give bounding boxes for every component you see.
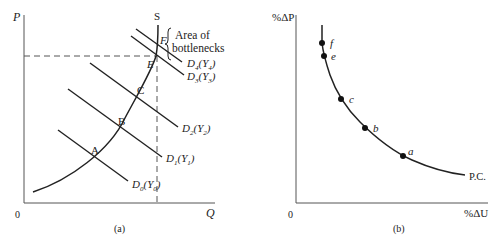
demand-label-d3: D3(Y3) <box>186 70 216 85</box>
demand-label-d1: D1(Y1) <box>165 152 195 167</box>
panel-a-caption: (a) <box>114 223 125 235</box>
point-f-marker <box>319 40 325 46</box>
point-b-label: b <box>373 122 379 134</box>
panel-a: P 0 Q (a) S Area of bottlenecks A B C E … <box>12 10 225 235</box>
demand-curve-d2 <box>90 63 178 127</box>
panel-b-origin-label: 0 <box>288 209 293 220</box>
point-f-label: F <box>159 34 167 46</box>
point-e-label: E <box>146 58 154 70</box>
figure: P 0 Q (a) S Area of bottlenecks A B C E … <box>0 0 499 243</box>
point-b-label: B <box>118 115 125 127</box>
point-e-marker <box>321 53 327 59</box>
panel-b-y-axis-label: %ΔP <box>272 11 294 23</box>
panel-b-caption: (b) <box>393 223 405 235</box>
point-a-label: a <box>408 145 414 157</box>
panel-b: f e c b a P.C. %ΔP 0 %ΔU (b) <box>272 11 488 235</box>
point-c-marker <box>338 96 344 102</box>
bottleneck-note-line1: Area of <box>175 29 210 41</box>
phillips-curve-label: P.C. <box>469 171 486 182</box>
panel-a-origin-label: 0 <box>15 209 20 220</box>
bottleneck-note-line2: bottlenecks <box>172 42 225 54</box>
demand-label-d0: D0(Y0) <box>131 178 161 193</box>
point-a-label: A <box>91 144 99 156</box>
point-a-marker <box>400 153 406 159</box>
demand-label-d2: D2(Y2) <box>181 122 211 137</box>
panel-a-y-axis-label: P <box>12 10 21 24</box>
point-c-label: C <box>137 84 144 96</box>
point-c-label: c <box>349 93 354 105</box>
point-b-marker <box>362 125 368 131</box>
point-e-label: e <box>331 50 336 62</box>
supply-label: S <box>154 10 160 22</box>
panel-a-x-axis-label: Q <box>206 206 215 220</box>
panel-b-x-axis-label: %ΔU <box>464 207 488 219</box>
point-f-label: f <box>330 37 335 49</box>
